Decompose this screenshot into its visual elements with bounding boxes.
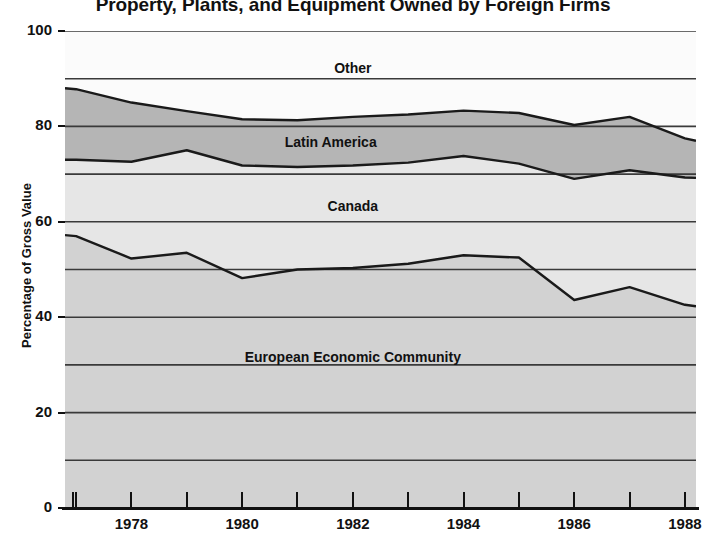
y-tick-mark-20 bbox=[58, 412, 65, 414]
y-tick-mark-80 bbox=[58, 125, 65, 127]
y-axis-line bbox=[63, 31, 65, 509]
area-label-canada: Canada bbox=[153, 198, 553, 214]
x-tick-mark-1988 bbox=[684, 492, 686, 508]
y-tick-label-80: 80 bbox=[8, 116, 52, 133]
x-tick-mark-1978 bbox=[130, 492, 132, 508]
x-tick-mark-1980 bbox=[241, 492, 243, 508]
x-tick-mark-1987 bbox=[629, 492, 631, 508]
x-tick-mark-1985 bbox=[518, 492, 520, 508]
area-label-latin-america: Latin America bbox=[131, 134, 531, 150]
y-tick-label-40: 40 bbox=[8, 307, 52, 324]
y-tick-label-100: 100 bbox=[8, 21, 52, 38]
area-chart-svg bbox=[65, 31, 696, 508]
x-tick-mark-1982 bbox=[352, 492, 354, 508]
x-tick-label-1986: 1986 bbox=[539, 515, 609, 532]
x-tick-mark-1979 bbox=[186, 492, 188, 508]
x-tick-mark-1981 bbox=[296, 492, 298, 508]
y-axis-label: Percentage of Gross Value bbox=[19, 136, 34, 396]
x-tick-mark-1983 bbox=[407, 492, 409, 508]
x-tick-mark-1977 bbox=[75, 492, 77, 508]
y-tick-label-20: 20 bbox=[8, 403, 52, 420]
x-tick-label-1988: 1988 bbox=[650, 515, 706, 532]
area-label-other: Other bbox=[153, 60, 553, 76]
origin-tick-mark bbox=[72, 492, 74, 508]
y-tick-mark-40 bbox=[58, 316, 65, 318]
chart-figure: Property, Plants, and Equipment Owned by… bbox=[0, 0, 706, 549]
plot-area bbox=[65, 31, 696, 508]
y-tick-label-60: 60 bbox=[8, 212, 52, 229]
x-tick-mark-1986 bbox=[573, 492, 575, 508]
y-tick-mark-0 bbox=[58, 507, 65, 509]
x-axis-line bbox=[62, 507, 699, 510]
x-tick-label-1980: 1980 bbox=[207, 515, 277, 532]
page-title: Property, Plants, and Equipment Owned by… bbox=[0, 0, 706, 16]
x-tick-label-1982: 1982 bbox=[318, 515, 388, 532]
y-tick-label-0: 0 bbox=[8, 498, 52, 515]
x-tick-label-1984: 1984 bbox=[429, 515, 499, 532]
area-label-eec: European Economic Community bbox=[153, 349, 553, 365]
x-tick-label-1978: 1978 bbox=[96, 515, 166, 532]
y-tick-mark-100 bbox=[58, 30, 65, 32]
x-tick-mark-1984 bbox=[463, 492, 465, 508]
y-tick-mark-60 bbox=[58, 221, 65, 223]
